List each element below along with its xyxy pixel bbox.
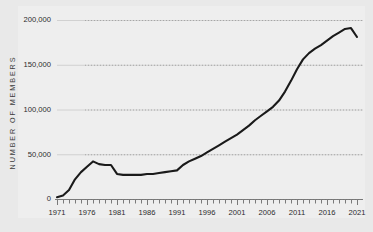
- x-axis-tick-label: 2016: [310, 208, 344, 217]
- chart-plot-panel: [18, 6, 365, 218]
- y-axis-tick-label: 200,000: [5, 15, 51, 24]
- y-axis-tick-label: 50,000: [5, 150, 51, 159]
- x-axis-tick-label: 1991: [160, 208, 194, 217]
- chart-plot-svg: [18, 6, 365, 218]
- x-axis-tick-label: 2021: [340, 208, 373, 217]
- x-axis-tick-label: 1986: [130, 208, 164, 217]
- y-axis-tick-label: 150,000: [5, 60, 51, 69]
- x-axis-tick-label: 1976: [70, 208, 104, 217]
- x-axis-tick-label: 1981: [100, 208, 134, 217]
- chart-figure: NUMBER OF MEMBERS 050,000100,000150,0002…: [0, 0, 373, 232]
- y-axis-tick-label: 0: [5, 194, 51, 203]
- y-axis-tick-label: 100,000: [5, 105, 51, 114]
- x-axis-tick-label: 2011: [280, 208, 314, 217]
- x-axis-tick-label: 1996: [190, 208, 224, 217]
- x-axis-tick-label: 2006: [250, 208, 284, 217]
- x-axis-tick-label: 1971: [40, 208, 74, 217]
- x-axis-tick-label: 2001: [220, 208, 254, 217]
